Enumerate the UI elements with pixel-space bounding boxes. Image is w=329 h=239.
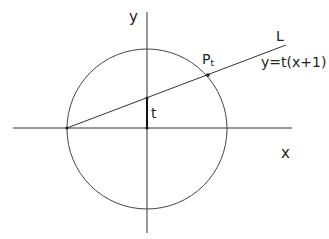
point-pt xyxy=(206,73,210,77)
origin-point xyxy=(145,126,148,129)
point-minus-one xyxy=(65,126,68,129)
line-name-label: L xyxy=(276,28,284,44)
y-axis-label: y xyxy=(129,8,138,26)
point-label: Pt xyxy=(202,51,214,68)
x-axis-label: x xyxy=(281,144,290,162)
intercept-label: t xyxy=(151,105,157,121)
line-equation-label: y=t(x+1) xyxy=(261,54,326,70)
point-intercept xyxy=(145,96,148,99)
diagram: y x L y=t(x+1) Pt t xyxy=(0,0,329,239)
line-l xyxy=(67,45,286,128)
